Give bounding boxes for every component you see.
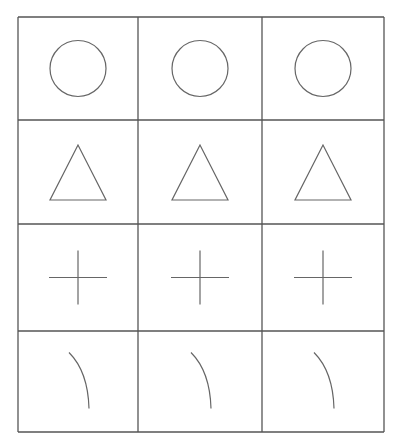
arc-shape [191,353,211,409]
triangle-shape [295,145,351,200]
cross-shape [49,251,107,305]
circle-shape [50,41,106,97]
cross-shape [294,251,352,305]
triangle-shape [50,145,106,200]
triangle-shape [172,145,228,200]
circle-shape [295,41,351,97]
shape-grid-diagram [0,0,398,446]
circle-shape [172,41,228,97]
arc-shape [69,353,89,409]
grid-lines [18,17,384,432]
arc-shape [314,353,334,409]
cross-shape [171,251,229,305]
